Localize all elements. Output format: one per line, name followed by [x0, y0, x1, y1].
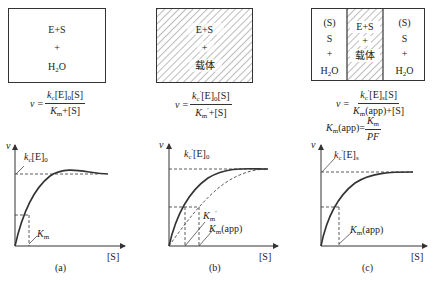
graph-a-plateau-label: kc[E]0: [24, 151, 48, 164]
graph-a-x-label: [S]: [107, 251, 119, 262]
graph-c-x-label: [S]: [411, 251, 423, 262]
kinetics-graphs: [0, 0, 432, 283]
graph-b-plateau-label: kc′[E]0: [184, 147, 209, 161]
graph-a-y-label: v: [6, 140, 10, 151]
caption-a: (a): [55, 262, 66, 273]
graph-b-x-label: [S]: [259, 251, 271, 262]
graph-b-y-label: v: [159, 139, 163, 150]
caption-b: (b): [209, 262, 221, 273]
caption-c: (c): [362, 262, 373, 273]
graph-b-km-prime-label: Km′: [203, 209, 217, 223]
graph-c-y-label: v: [311, 139, 315, 150]
graph-c-km-app-label: Km(app): [350, 224, 383, 237]
graph-b-km-app-label: Km(app): [209, 223, 242, 236]
graph-a-km-label: Km: [37, 228, 49, 241]
graph-c-plateau-label: kc′[E]s: [334, 148, 359, 162]
